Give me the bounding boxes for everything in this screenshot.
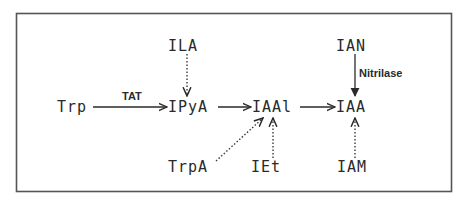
arrow-trpa-to-iaal: [216, 118, 263, 161]
pathway-diagram: ILA IAN Trp IPyA IAAl IAA TrpA IEt IAM T…: [0, 0, 465, 201]
node-iaal: IAAl: [252, 98, 292, 116]
node-trp: Trp: [57, 98, 87, 116]
node-ian: IAN: [336, 37, 366, 55]
node-ila: ILA: [168, 37, 198, 55]
node-ipya: IPyA: [168, 98, 208, 116]
node-iam: IAM: [337, 158, 367, 176]
node-iaa: IAA: [336, 98, 366, 116]
enzyme-tat-label: TAT: [122, 90, 142, 102]
node-trpa: TrpA: [168, 158, 208, 176]
node-iet: IEt: [251, 158, 281, 176]
enzyme-nitrilase-label: Nitrilase: [359, 67, 402, 79]
